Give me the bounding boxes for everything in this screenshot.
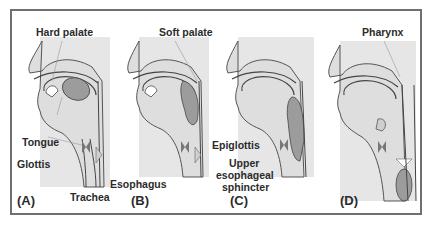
swallow-stage-a-illustration	[12, 11, 114, 213]
figure-frame: Hard palate Tongue Glottis Trachea Esoph…	[10, 9, 422, 215]
label-epiglottis: Epiglottis	[212, 139, 260, 151]
label-tongue: Tongue	[22, 136, 59, 148]
swallow-stage-d-illustration	[318, 11, 420, 213]
panel-a: Hard palate Tongue Glottis Trachea Esoph…	[12, 11, 114, 213]
panel-id-a: (A)	[17, 193, 35, 208]
label-upper: Upper	[229, 157, 259, 169]
panel-c: Epiglottis Upper esophageal sphincter (C…	[216, 11, 318, 213]
label-sphincter: sphincter	[222, 181, 269, 193]
label-esophageal: esophageal	[216, 169, 274, 181]
label-hard-palate: Hard palate	[36, 26, 93, 38]
panel-id-d: (D)	[340, 193, 358, 208]
label-pharynx: Pharynx	[362, 26, 403, 38]
panel-b: Soft palate (B)	[113, 11, 215, 213]
label-trachea: Trachea	[70, 191, 110, 203]
label-glottis: Glottis	[17, 158, 50, 170]
label-soft-palate: Soft palate	[159, 26, 213, 38]
panel-d: Pharynx (D)	[318, 11, 420, 213]
panel-id-c: (C)	[230, 193, 248, 208]
panel-id-b: (B)	[131, 193, 149, 208]
swallow-stage-b-illustration	[113, 11, 215, 213]
